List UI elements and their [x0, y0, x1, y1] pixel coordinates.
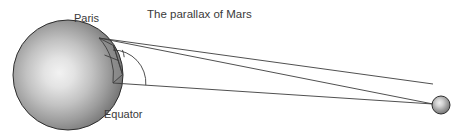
- parallax-diagram-figure: The parallax of Mars Paris Equator: [0, 0, 472, 135]
- paris-label: Paris: [74, 12, 100, 24]
- sight-line-equator-to-mars: [113, 83, 433, 104]
- parallax-diagram-canvas: The parallax of Mars Paris Equator: [0, 0, 472, 135]
- reference-line-paris-horizon: [99, 38, 433, 84]
- diagram-title: The parallax of Mars: [147, 8, 252, 20]
- sight-line-paris-to-mars: [99, 38, 433, 104]
- mars-sphere: [432, 96, 450, 114]
- equator-label: Equator: [104, 108, 143, 120]
